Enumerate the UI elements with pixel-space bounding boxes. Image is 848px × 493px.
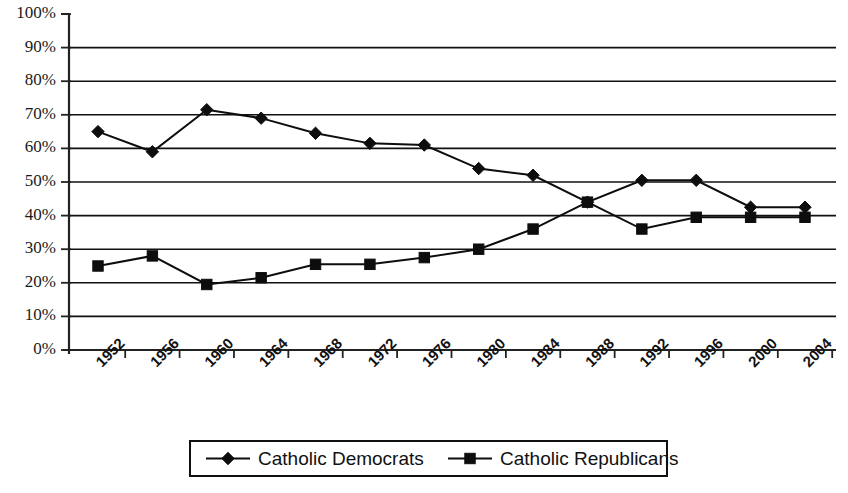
data-point-marker — [310, 259, 320, 269]
legend-label: Catholic Democrats — [258, 448, 424, 469]
y-axis-tick-label: 100% — [16, 3, 56, 22]
y-axis-tick-label: 90% — [25, 37, 56, 56]
y-axis-tick-label: 60% — [25, 137, 56, 156]
legend-marker-square-icon — [465, 453, 475, 463]
data-point-marker — [745, 212, 755, 222]
y-axis-tick-label: 0% — [33, 339, 56, 358]
y-axis-tick-label: 30% — [25, 238, 56, 257]
data-point-marker — [419, 252, 429, 262]
legend-label: Catholic Republicans — [500, 448, 679, 469]
data-point-marker — [637, 224, 647, 234]
chart-background — [0, 0, 848, 493]
y-axis-tick-label: 20% — [25, 272, 56, 291]
data-point-marker — [528, 224, 538, 234]
data-point-marker — [365, 259, 375, 269]
y-axis-tick-label: 80% — [25, 70, 56, 89]
data-point-marker — [582, 197, 592, 207]
chart-legend: Catholic DemocratsCatholic Republicans — [190, 441, 679, 476]
data-point-marker — [691, 212, 701, 222]
data-point-marker — [93, 261, 103, 271]
data-point-marker — [473, 244, 483, 254]
data-point-marker — [147, 251, 157, 261]
line-chart: 0%10%20%30%40%50%60%70%80%90%100% 195219… — [0, 0, 848, 493]
y-axis-tick-label: 40% — [25, 205, 56, 224]
data-point-marker — [800, 212, 810, 222]
data-point-marker — [202, 279, 212, 289]
y-axis-tick-label: 10% — [25, 305, 56, 324]
data-point-marker — [256, 273, 266, 283]
y-axis-tick-label: 50% — [25, 171, 56, 190]
y-axis-tick-label: 70% — [25, 104, 56, 123]
chart-container: 0%10%20%30%40%50%60%70%80%90%100% 195219… — [0, 0, 848, 493]
